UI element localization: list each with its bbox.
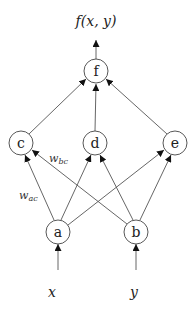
node-b-label: b: [132, 224, 141, 240]
node-f: f: [84, 59, 108, 83]
node-b: b: [124, 220, 148, 244]
node-e: e: [163, 131, 187, 155]
edge-d-f: [95, 84, 96, 131]
network-diagram: f(x, y) f c d e a b wbc wac x y: [0, 0, 195, 311]
node-d-label: d: [91, 135, 100, 151]
node-e-label: e: [171, 135, 179, 151]
edge-e-f: [106, 79, 167, 134]
input-label-x: x: [48, 284, 56, 300]
node-c-label: c: [17, 135, 25, 151]
edge-b-c: [32, 150, 127, 224]
output-label: f(x, y): [75, 13, 117, 29]
input-label-y: y: [129, 284, 139, 300]
node-a-label: a: [54, 224, 62, 240]
weight-label-ac: wac: [19, 189, 38, 203]
edge-c-f: [29, 79, 86, 134]
node-d: d: [83, 131, 107, 155]
node-a: a: [46, 220, 70, 244]
edge-b-d: [100, 155, 133, 220]
weight-label-bc: wbc: [49, 152, 69, 166]
node-c: c: [9, 131, 33, 155]
